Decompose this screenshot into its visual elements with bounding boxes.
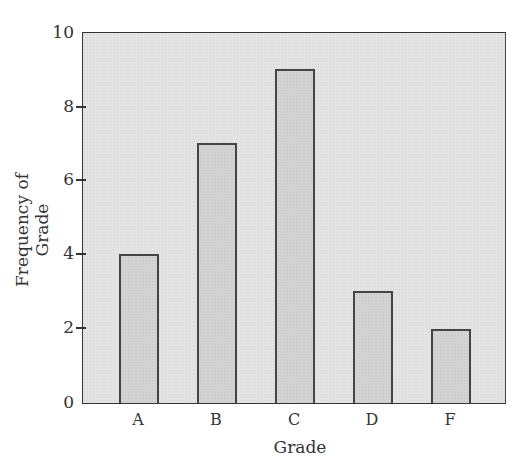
y-tick-label: 8: [44, 96, 74, 116]
x-category-label: F: [430, 410, 470, 429]
x-category-label: A: [118, 410, 158, 429]
x-category-label: C: [274, 410, 314, 429]
y-tick: [76, 179, 86, 181]
y-tick: [76, 327, 86, 329]
x-category-label: B: [196, 410, 236, 429]
x-category-label: D: [352, 410, 392, 429]
y-tick-label: 2: [44, 317, 74, 337]
plot-area: [82, 32, 506, 404]
y-tick: [76, 106, 86, 108]
bar-D: [353, 291, 393, 403]
bar-A: [119, 254, 159, 403]
bar-F: [431, 329, 471, 403]
bar-B: [197, 143, 237, 403]
y-tick-label: 0: [44, 392, 74, 412]
x-axis-label: Grade: [260, 437, 340, 457]
y-tick-label: 10: [44, 22, 74, 42]
y-tick: [76, 253, 86, 255]
bar-C: [275, 69, 315, 403]
y-axis-label: Frequency of Grade: [12, 160, 52, 300]
